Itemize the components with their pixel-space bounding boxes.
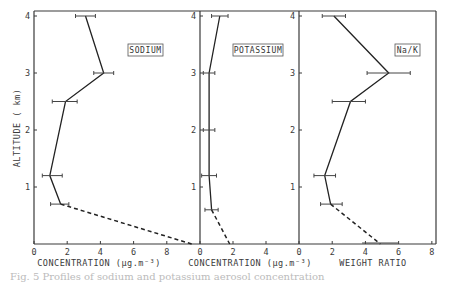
svg-text:4: 4 <box>25 11 30 21</box>
svg-text:8: 8 <box>164 247 169 257</box>
svg-text:0: 0 <box>296 247 301 257</box>
svg-text:1: 1 <box>191 182 196 192</box>
svg-text:6: 6 <box>131 247 136 257</box>
svg-text:1: 1 <box>25 182 30 192</box>
axis-ticks: 1234024681234024123402468 <box>25 11 435 257</box>
svg-text:2: 2 <box>330 247 335 257</box>
data-series <box>42 14 410 244</box>
svg-text:2: 2 <box>25 125 30 135</box>
ratio-title-box: Na/K <box>395 44 420 56</box>
potassium-title: POTASSIUM <box>234 46 283 55</box>
svg-text:2: 2 <box>290 125 295 135</box>
sodium-title-box: SODIUM <box>128 44 163 56</box>
figure-caption: Fig. 5 Profiles of sodium and potassium … <box>10 271 324 282</box>
svg-text:2: 2 <box>65 247 70 257</box>
svg-text:4: 4 <box>98 247 103 257</box>
sodium-title: SODIUM <box>129 46 162 55</box>
svg-text:8: 8 <box>429 247 434 257</box>
svg-text:4: 4 <box>290 11 295 21</box>
svg-text:6: 6 <box>396 247 401 257</box>
potassium-title-box: POTASSIUM <box>233 44 283 56</box>
svg-text:0: 0 <box>197 247 202 257</box>
svg-text:4: 4 <box>363 247 368 257</box>
ratio-title: Na/K <box>397 46 419 55</box>
x-axis-label-ratio: WEIGHT RATIO <box>339 258 406 268</box>
svg-text:4: 4 <box>191 11 196 21</box>
svg-text:3: 3 <box>25 68 30 78</box>
svg-text:1: 1 <box>290 182 295 192</box>
svg-text:4: 4 <box>263 247 268 257</box>
x-axis-label-potassium: CONCENTRATION (µg.m⁻³) <box>188 258 312 268</box>
y-axis-label: ALTITUDE ( km) <box>12 89 22 168</box>
svg-text:3: 3 <box>191 68 196 78</box>
x-axis-label-sodium: CONCENTRATION (µg.m⁻³) <box>37 258 161 268</box>
svg-text:2: 2 <box>191 125 196 135</box>
svg-text:2: 2 <box>230 247 235 257</box>
svg-text:3: 3 <box>290 68 295 78</box>
svg-text:0: 0 <box>31 247 36 257</box>
